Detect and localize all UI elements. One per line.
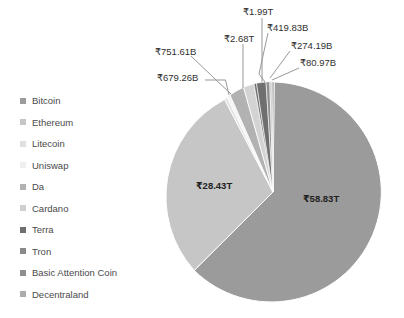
legend-label-basic-attention-coin: Basic Attention Coin [32, 262, 117, 284]
pie-slices [166, 82, 381, 302]
callout-bat: ₹80.97B [300, 57, 336, 68]
legend-label-tron: Tron [32, 241, 51, 263]
pie-chart-figure: ₹751.61B ₹679.26B ₹2.68T ₹1.99T ₹419.83B… [0, 0, 404, 318]
legend-item-litecoin[interactable]: Litecoin [20, 133, 150, 155]
legend-label-ethereum: Ethereum [32, 112, 73, 134]
slice-label-bitcoin: ₹58.83T [303, 193, 339, 204]
legend-item-decentraland[interactable]: Decentraland [20, 284, 150, 306]
legend-label-da: Da [32, 176, 44, 198]
legend-item-bitcoin[interactable]: Bitcoin [20, 90, 150, 112]
callout-litecoin: ₹679.26B [157, 72, 198, 83]
leader-line-tron [270, 51, 290, 78]
chart-legend: Bitcoin Ethereum Litecoin Uniswap Da Car… [20, 90, 150, 305]
legend-label-bitcoin: Bitcoin [32, 90, 61, 112]
callout-terra: ₹419.83B [267, 22, 308, 33]
legend-swatch-icon-da [20, 184, 26, 190]
callout-uniswap: ₹751.61B [155, 46, 196, 57]
callout-tron: ₹274.19B [291, 40, 332, 51]
legend-item-basic-attention-coin[interactable]: Basic Attention Coin [20, 262, 150, 284]
legend-item-ethereum[interactable]: Ethereum [20, 112, 150, 134]
legend-item-tron[interactable]: Tron [20, 241, 150, 263]
legend-swatch-icon-litecoin [20, 141, 26, 147]
legend-swatch-icon-uniswap [20, 162, 26, 168]
legend-label-litecoin: Litecoin [32, 133, 65, 155]
callout-cardano: ₹1.99T [243, 6, 273, 17]
legend-item-cardano[interactable]: Cardano [20, 198, 150, 220]
legend-label-terra: Terra [32, 219, 54, 241]
legend-swatch-icon-bitcoin [20, 98, 26, 104]
legend-item-da[interactable]: Da [20, 176, 150, 198]
legend-swatch-icon-terra [20, 227, 26, 233]
legend-label-cardano: Cardano [32, 198, 68, 220]
legend-swatch-icon-basic-attention-coin [20, 270, 26, 276]
legend-swatch-icon-cardano [20, 205, 26, 211]
legend-swatch-icon-ethereum [20, 119, 26, 125]
legend-swatch-icon-tron [20, 248, 26, 254]
legend-swatch-icon-decentraland [20, 291, 26, 297]
legend-item-terra[interactable]: Terra [20, 219, 150, 241]
leader-line-litecoin [205, 80, 229, 95]
legend-label-decentraland: Decentraland [32, 284, 89, 306]
slice-label-ethereum: ₹28.43T [196, 180, 232, 191]
legend-label-uniswap: Uniswap [32, 155, 68, 177]
callout-da: ₹2.68T [224, 33, 254, 44]
legend-item-uniswap[interactable]: Uniswap [20, 155, 150, 177]
leader-line-terra [259, 33, 268, 82]
